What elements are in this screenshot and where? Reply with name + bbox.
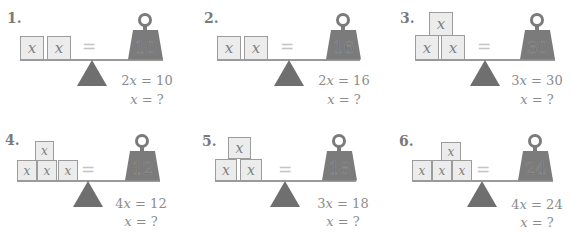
- weight-value: 12: [132, 158, 154, 178]
- problem-3: 3. x x x = 30 3x = 30 x = ?: [380, 0, 570, 116]
- problem-number: 4.: [5, 132, 20, 148]
- x-block: x: [441, 142, 461, 161]
- x-block: x: [412, 160, 432, 181]
- fulcrum-icon: [469, 60, 501, 87]
- x-block: x: [452, 160, 472, 181]
- problem-number: 3.: [400, 10, 415, 26]
- problem-number: 5.: [202, 133, 217, 149]
- x-block: x: [17, 160, 37, 181]
- x-block: x: [58, 160, 78, 181]
- problem-number: 6.: [399, 133, 414, 149]
- x-block: x: [429, 12, 453, 36]
- equation: 2x = 16: [315, 72, 373, 89]
- equals-sign: =: [280, 38, 294, 55]
- problem-6: 6. x x x x = 24 4x = 24 x = ?: [380, 118, 570, 233]
- x-block: x: [240, 159, 262, 181]
- weight-icon: 12: [123, 133, 163, 182]
- equals-sign: =: [81, 161, 95, 178]
- x-block: x: [244, 36, 268, 60]
- question: x = ?: [508, 214, 566, 231]
- weight-value: 24: [525, 158, 547, 178]
- x-block: x: [415, 35, 439, 60]
- weight-value: 10: [135, 37, 157, 57]
- equation: 4x = 12: [112, 195, 170, 212]
- x-block: x: [432, 160, 452, 181]
- question: x = ?: [314, 213, 372, 230]
- x-block: x: [441, 35, 465, 60]
- x-block: x: [37, 160, 57, 181]
- problem-5: 5. x x x = 18 3x = 18 x = ?: [190, 118, 380, 233]
- weight-value: 30: [527, 37, 549, 57]
- equation: 2x = 10: [118, 72, 176, 89]
- equals-sign: =: [82, 38, 96, 55]
- fulcrum-icon: [466, 181, 498, 208]
- weight-icon: 24: [516, 133, 556, 182]
- x-block: x: [35, 141, 54, 161]
- equals-sign: =: [477, 38, 491, 55]
- question: x = ?: [112, 213, 170, 230]
- fulcrum-icon: [72, 181, 104, 208]
- question: x = ?: [315, 91, 373, 108]
- weight-value: 16: [333, 37, 355, 57]
- problem-4: 4. x x x x = 12 4x = 12 x = ?: [0, 118, 190, 233]
- equation: 3x = 30: [508, 72, 566, 89]
- weight-value: 18: [329, 158, 351, 178]
- equals-sign: =: [476, 161, 490, 178]
- x-block: x: [47, 36, 71, 60]
- problem-number: 1.: [7, 10, 22, 26]
- weight-icon: 16: [324, 12, 364, 61]
- equals-sign: =: [278, 161, 292, 178]
- fulcrum-icon: [76, 60, 108, 87]
- x-block: x: [217, 36, 241, 60]
- problem-2: 2. x x = 16 2x = 16 x = ?: [190, 0, 380, 116]
- weight-icon: 30: [518, 12, 558, 61]
- fulcrum-icon: [269, 181, 301, 208]
- fulcrum-icon: [273, 60, 305, 87]
- x-block: x: [215, 159, 237, 181]
- equation: 4x = 24: [508, 196, 566, 213]
- x-block: x: [228, 137, 251, 159]
- weight-icon: 18: [320, 133, 360, 182]
- weight-icon: 10: [126, 12, 166, 61]
- x-block: x: [20, 36, 44, 60]
- question: x = ?: [508, 91, 566, 108]
- question: x = ?: [118, 91, 176, 108]
- equation: 3x = 18: [314, 195, 372, 212]
- problem-1: 1. x x = 10 2x = 10 x = ?: [0, 0, 190, 116]
- problem-number: 2.: [204, 10, 219, 26]
